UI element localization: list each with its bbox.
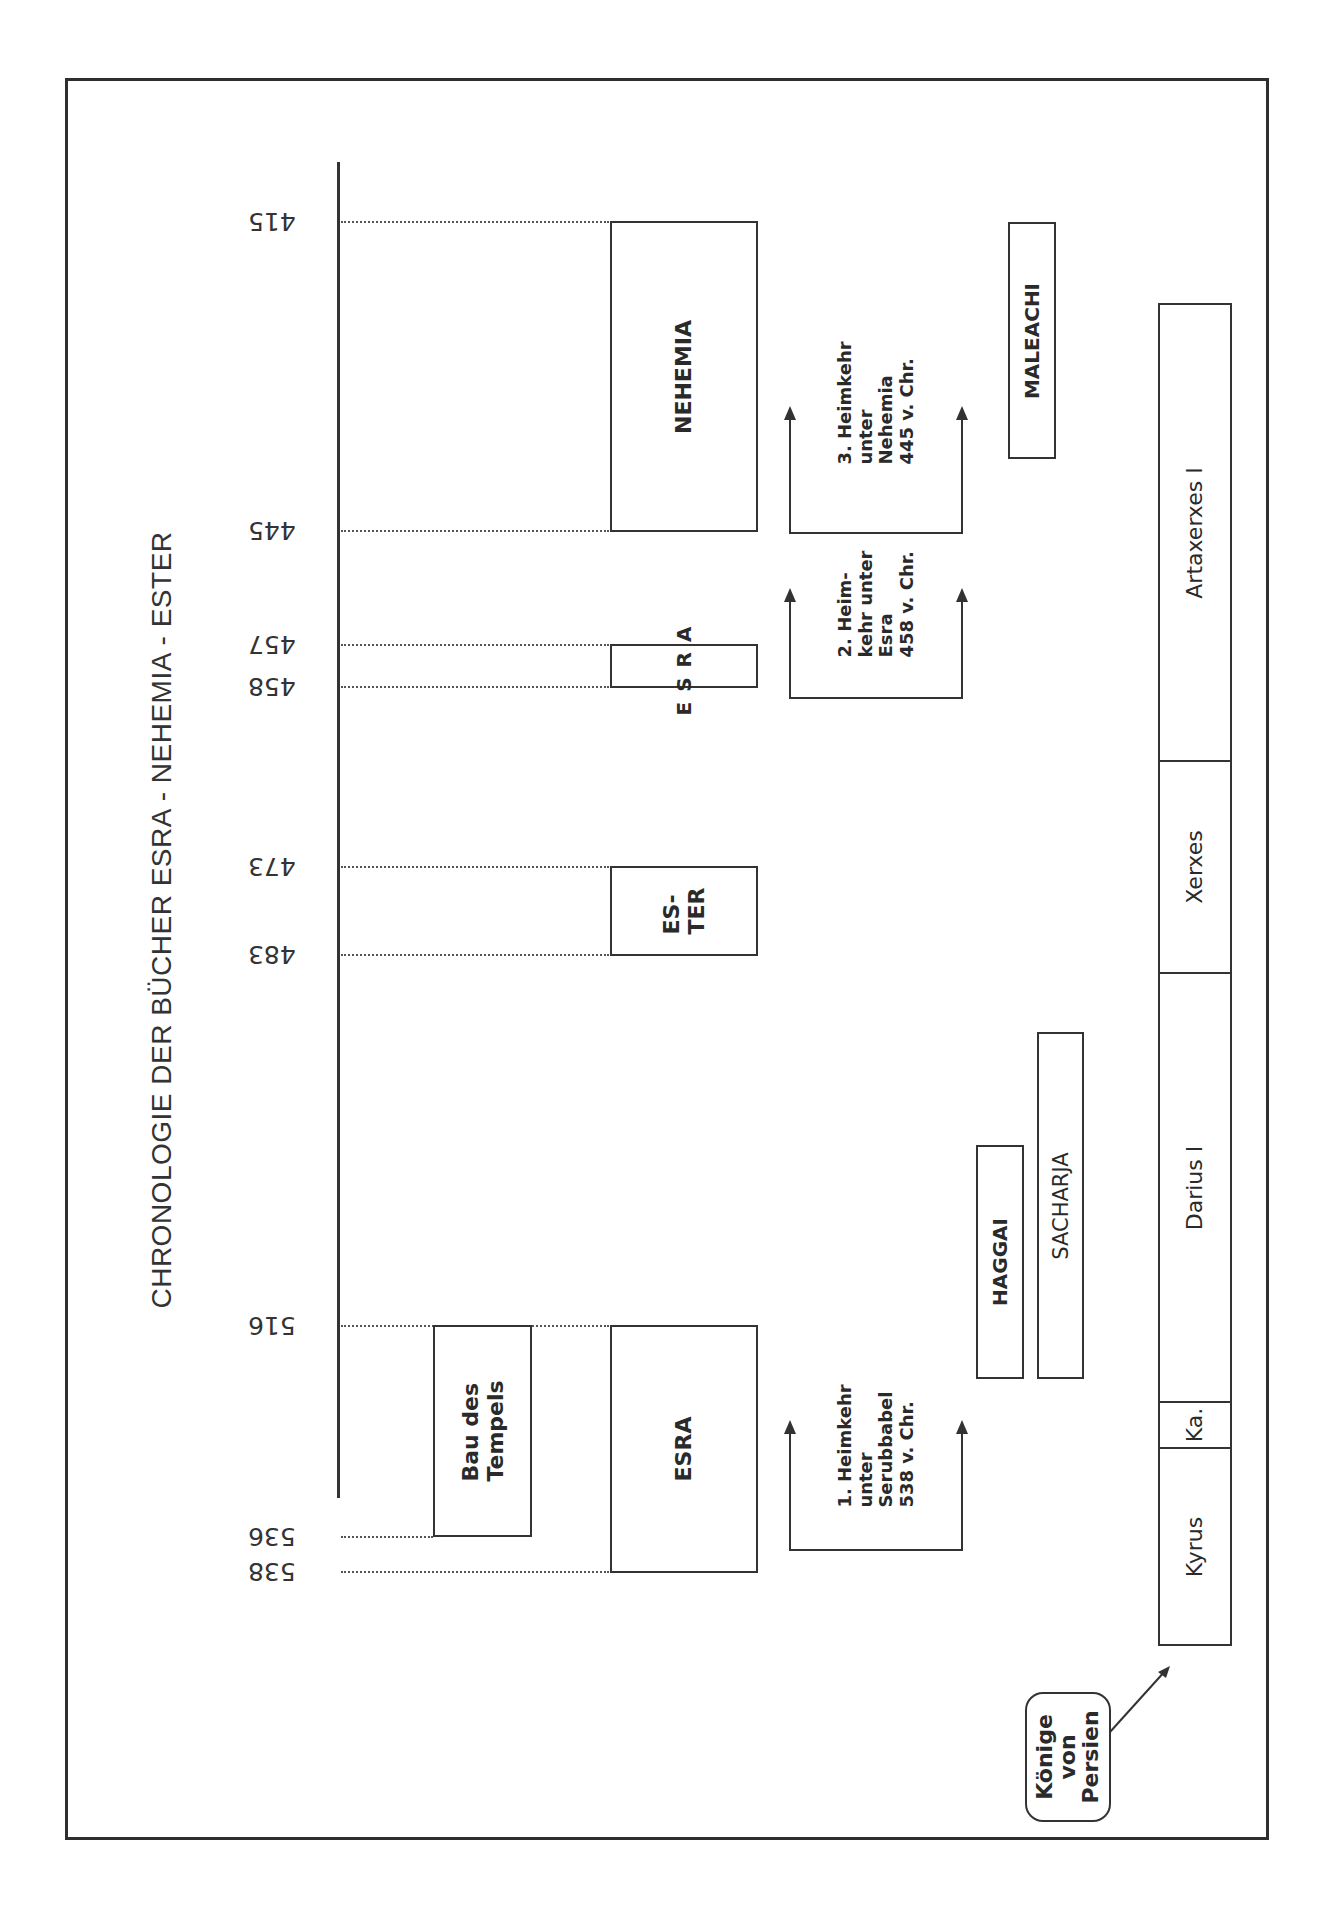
arrow-up-icon (956, 1420, 968, 1434)
tick-line-458 (341, 686, 609, 688)
year-label-483: 483 (248, 941, 328, 967)
timeline-axis (337, 162, 340, 1498)
return-1-text: 1. HeimkehrunterSerubbabel538 v. Chr. (835, 1384, 918, 1507)
king-darius-label: Darius I (1182, 1145, 1207, 1229)
return-3-text: 3. HeimkehrunterNehemia445 v. Chr. (835, 341, 918, 464)
book-ester: ES-TER (610, 866, 758, 956)
book-ester-label: ES-TER (659, 888, 710, 935)
return-2-text: 2. Heim-kehr unterEsra458 v. Chr. (835, 551, 918, 658)
year-label-538: 538 (248, 1558, 328, 1584)
book-esra-later-label: ESRA (672, 617, 696, 716)
king-kambyses-label: Ka. (1182, 1408, 1207, 1443)
prophet-sacharja-label: SACHARJA (1048, 1152, 1072, 1259)
year-label-473: 473 (248, 853, 328, 879)
kings-callout: KönigevonPersien (1025, 1692, 1111, 1822)
king-artaxerxes: Artaxerxes I (1160, 305, 1230, 762)
year-label-536: 536 (248, 1523, 328, 1549)
tick-line-415 (341, 221, 609, 223)
tick-line-536 (341, 1536, 433, 1538)
tick-line-538 (341, 1571, 609, 1573)
book-esra-later: ESRA (610, 644, 758, 688)
kings-of-persia-column: Artaxerxes I Xerxes Darius I Ka. Kyrus (1158, 303, 1232, 1646)
prophet-maleachi: MALEACHI (1008, 222, 1056, 459)
year-label-457: 457 (248, 631, 328, 657)
bau-des-tempels: Bau desTempels (433, 1325, 532, 1537)
king-xerxes: Xerxes (1160, 762, 1230, 974)
king-xerxes-label: Xerxes (1182, 830, 1207, 903)
arrow-up-icon (784, 406, 796, 420)
year-label-458: 458 (248, 673, 328, 699)
king-kyrus: Kyrus (1160, 1449, 1230, 1644)
diagram-title: CHRONOLOGIE DER BÜCHER ESRA - NEHEMIA - … (146, 531, 178, 1308)
bau-des-tempels-label: Bau desTempels (457, 1380, 508, 1481)
arrow-up-icon (784, 588, 796, 602)
king-kambyses: Ka. (1160, 1403, 1230, 1449)
king-kyrus-label: Kyrus (1182, 1516, 1207, 1576)
book-nehemia: NEHEMIA (610, 221, 758, 532)
tick-line-473 (341, 866, 609, 868)
prophet-maleachi-label: MALEACHI (1021, 282, 1044, 398)
king-darius: Darius I (1160, 974, 1230, 1403)
arrow-up-icon (956, 406, 968, 420)
arrow-up-icon (784, 1420, 796, 1434)
tick-line-457 (341, 644, 609, 646)
book-esra-label: ESRA (671, 1417, 696, 1482)
book-nehemia-label: NEHEMIA (671, 320, 696, 434)
tick-line-483 (341, 954, 609, 956)
prophet-haggai: HAGGAI (976, 1145, 1024, 1379)
tick-line-445 (341, 530, 609, 532)
year-label-415: 415 (248, 208, 328, 234)
kings-callout-label: KönigevonPersien (1033, 1710, 1102, 1803)
king-artaxerxes-label: Artaxerxes I (1182, 467, 1207, 598)
callout-arrow-icon (1100, 1660, 1180, 1740)
year-label-516: 516 (248, 1312, 328, 1338)
book-esra: ESRA (610, 1325, 758, 1573)
arrow-up-icon (956, 588, 968, 602)
prophet-sacharja: SACHARJA (1037, 1032, 1084, 1379)
prophet-haggai-label: HAGGAI (989, 1218, 1012, 1306)
year-label-445: 445 (248, 517, 328, 543)
